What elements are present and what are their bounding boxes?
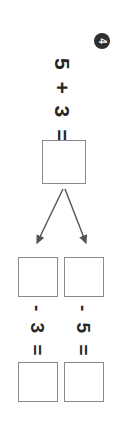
branch-left-bottom-box[interactable] — [18, 362, 58, 402]
worksheet-problem: 4 5 + 3 = - 3 = - 5 = — [0, 0, 116, 432]
arrow-left — [37, 189, 63, 243]
branch-right-bottom-box[interactable] — [64, 362, 104, 402]
branch-right-top-box[interactable] — [64, 257, 104, 297]
arrow-right — [65, 189, 86, 243]
branch-left-equation: - 3 = — [26, 305, 48, 359]
branch-right-equation: - 5 = — [72, 305, 94, 359]
branch-left-top-box[interactable] — [18, 257, 58, 297]
